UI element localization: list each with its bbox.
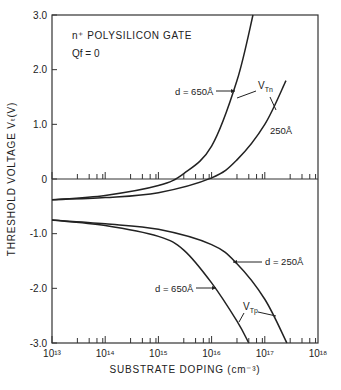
curve-vtp-d-250- xyxy=(52,220,287,343)
chart: 3.02.01.00-1.0-2.0-3.010¹³10¹⁴10¹⁵10¹⁶10… xyxy=(0,0,341,390)
x-tick-label: 10¹⁶ xyxy=(202,348,221,359)
y-tick-label: 2.0 xyxy=(33,64,47,75)
gate-annotation: n⁺ POLYSILICON GATE xyxy=(72,30,192,41)
x-tick-label: 10¹⁷ xyxy=(256,348,274,359)
x-tick-label: 10¹³ xyxy=(43,348,61,359)
ticks: 3.02.01.00-1.0-2.0-3.010¹³10¹⁴10¹⁵10¹⁶10… xyxy=(30,10,328,360)
vtn-pointer-1 xyxy=(237,91,256,98)
vtp-pointer-1 xyxy=(239,313,244,322)
vtp-label: VTp xyxy=(243,301,258,315)
curve-vtp-d-650- xyxy=(52,220,249,343)
vtp-250-label: d = 250Å xyxy=(265,256,304,267)
x-axis-label: SUBSTRATE DOPING (cm⁻³) xyxy=(110,364,261,375)
charge-annotation: Qf = 0 xyxy=(72,48,100,59)
vtn-650-label: d = 650Å xyxy=(175,86,214,97)
x-tick-label: 10¹⁴ xyxy=(96,348,115,359)
x-tick-label: 10¹⁸ xyxy=(309,348,328,359)
x-tick-label: 10¹⁵ xyxy=(149,348,168,359)
y-tick-label: 1.0 xyxy=(33,119,47,130)
y-tick-label: -3.0 xyxy=(30,338,48,349)
vtp-650-label: d = 650Å xyxy=(155,283,194,294)
vtn-250-label: 250Å xyxy=(270,125,293,136)
vtn-label: VTn xyxy=(258,80,273,93)
y-tick-label: 3.0 xyxy=(33,10,47,21)
y-tick-label: 0 xyxy=(41,174,47,185)
y-tick-label: -1.0 xyxy=(30,228,48,239)
y-tick-label: -2.0 xyxy=(30,283,48,294)
y-axis-label: THRESHOLD VOLTAGE Vₜ(V) xyxy=(6,102,17,256)
